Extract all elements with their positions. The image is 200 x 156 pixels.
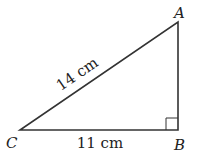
vertex-label-a: A: [172, 4, 185, 22]
base-length-label: 11 cm: [77, 134, 123, 152]
hypotenuse-length-label: 14 cm: [53, 53, 102, 94]
triangle-figure: A B C 14 cm 11 cm: [0, 0, 200, 156]
vertex-label-b: B: [173, 136, 185, 154]
right-angle-marker: [166, 118, 178, 130]
triangle-shape: [20, 22, 178, 130]
vertex-label-c: C: [6, 134, 18, 152]
triangle-diagram: A B C 14 cm 11 cm: [0, 0, 200, 156]
